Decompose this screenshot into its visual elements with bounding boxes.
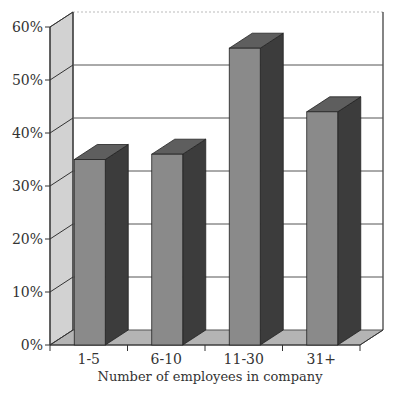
- bar-6-10: [152, 139, 206, 345]
- y-tick-label: 40%: [12, 125, 43, 141]
- bar-1-5: [74, 145, 128, 346]
- y-tick-label: 30%: [12, 178, 43, 194]
- y-tick-label: 60%: [12, 19, 43, 35]
- y-tick-label: 0%: [21, 337, 43, 353]
- y-tick-label: 20%: [12, 231, 43, 247]
- x-tick-label: 6-10: [151, 351, 182, 367]
- x-tick-label: 1-5: [77, 351, 100, 367]
- x-axis-title: Number of employees in company: [98, 369, 324, 384]
- y-tick-label: 50%: [12, 72, 43, 88]
- bar-chart-3d: 0%10%20%30%40%50%60%1-56-1011-3031+Numbe…: [0, 0, 396, 393]
- x-tick-label: 11-30: [224, 351, 264, 367]
- bar-11-30: [229, 33, 283, 345]
- y-tick-label: 10%: [12, 284, 43, 300]
- x-tick-label: 31+: [306, 351, 336, 367]
- bar-31+: [307, 97, 361, 345]
